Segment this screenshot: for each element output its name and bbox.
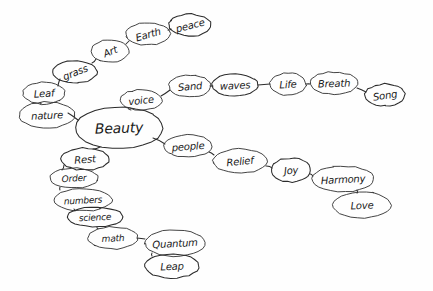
node-label-peace_t: peace <box>174 17 206 35</box>
node-label-joy: Joy <box>281 164 300 176</box>
node-life[interactable]: Life <box>269 73 306 95</box>
node-label-love: Love <box>350 199 374 211</box>
node-label-math: math <box>101 233 125 244</box>
node-label-leap: Leap <box>160 260 184 272</box>
node-harmony[interactable]: Harmony <box>312 166 374 192</box>
node-joy[interactable]: Joy <box>272 158 311 182</box>
node-label-earth: Earth <box>134 26 162 44</box>
node-label-song: Song <box>372 88 398 102</box>
node-peace_t[interactable]: peace <box>169 13 211 36</box>
node-label-rest: Rest <box>74 153 97 166</box>
node-label-beauty: Beauty <box>95 119 145 137</box>
node-label-leaf: Leaf <box>33 87 56 100</box>
edge-voice-to-sand <box>161 90 170 96</box>
edge-grass-to-art <box>92 59 96 63</box>
concept-map-svg: BeautynatureLeafgrassArtEarthpeacevoiceS… <box>0 0 433 291</box>
node-label-sand: Sand <box>177 80 203 93</box>
edge-beauty-to-nature <box>68 113 78 120</box>
node-label-quantum: Quantum <box>152 237 198 250</box>
node-sand[interactable]: Sand <box>169 75 211 97</box>
node-label-voice: voice <box>128 94 155 108</box>
node-label-life: Life <box>279 79 297 91</box>
node-label-people: people <box>170 140 204 153</box>
node-waves[interactable]: waves <box>212 74 258 96</box>
node-label-harmony: Harmony <box>321 173 367 186</box>
node-people[interactable]: people <box>164 134 212 156</box>
node-grass[interactable]: grass <box>53 61 98 83</box>
node-breath[interactable]: Breath <box>310 72 357 95</box>
concept-map-canvas: BeautynatureLeafgrassArtEarthpeacevoiceS… <box>0 0 433 291</box>
node-beauty[interactable]: Beauty <box>76 107 163 148</box>
node-love[interactable]: Love <box>332 192 391 218</box>
edge-art-to-earth <box>126 41 129 44</box>
edge-quantum-to-leap <box>152 253 153 256</box>
node-nature[interactable]: nature <box>19 102 74 129</box>
edge-waves-to-life <box>258 84 270 85</box>
node-label-science: science <box>79 212 113 224</box>
node-math[interactable]: math <box>88 226 138 249</box>
node-art[interactable]: Art <box>91 40 129 62</box>
node-label-numbers: numbers <box>64 194 103 206</box>
node-relief[interactable]: Relief <box>212 148 267 173</box>
edge-relief-to-joy <box>266 166 272 168</box>
node-label-waves: waves <box>219 79 250 92</box>
edge-math-to-quantum <box>137 238 145 239</box>
nodes-layer: BeautynatureLeafgrassArtEarthpeacevoiceS… <box>19 13 405 278</box>
node-label-art: Art <box>101 43 120 59</box>
edge-people-to-relief <box>209 152 214 155</box>
node-label-order: Order <box>61 173 88 184</box>
node-quantum[interactable]: Quantum <box>144 230 205 257</box>
node-leap[interactable]: Leap <box>145 254 199 279</box>
node-order[interactable]: Order <box>50 168 98 188</box>
node-label-relief: Relief <box>226 155 256 168</box>
edge-breath-to-song <box>357 88 366 92</box>
edge-beauty-to-people <box>153 138 165 144</box>
node-song[interactable]: Song <box>364 83 405 106</box>
node-rest[interactable]: Rest <box>61 148 109 170</box>
node-label-nature: nature <box>31 109 63 122</box>
node-label-breath: Breath <box>318 77 351 89</box>
node-earth[interactable]: Earth <box>126 23 171 45</box>
node-label-grass: grass <box>61 62 89 82</box>
